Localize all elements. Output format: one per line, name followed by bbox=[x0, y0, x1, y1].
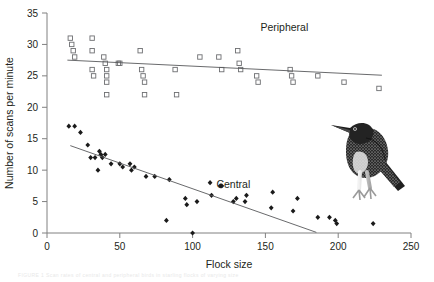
svg-text:25: 25 bbox=[27, 70, 39, 81]
series-peripheral-points bbox=[68, 36, 381, 97]
svg-text:150: 150 bbox=[257, 241, 274, 252]
svg-text:200: 200 bbox=[330, 241, 347, 252]
svg-text:20: 20 bbox=[27, 102, 39, 113]
starling-bird-illustration bbox=[326, 112, 406, 210]
svg-text:5: 5 bbox=[32, 196, 38, 207]
y-axis-title: Number of scans per minute bbox=[3, 57, 15, 189]
figure-container: 05101520253035050100150200250 Peripheral… bbox=[0, 0, 434, 282]
svg-text:0: 0 bbox=[32, 228, 38, 239]
svg-text:250: 250 bbox=[403, 241, 420, 252]
series-annotation-peripheral: Peripheral bbox=[260, 21, 308, 33]
x-axis-title: Flock size bbox=[206, 258, 253, 270]
svg-text:10: 10 bbox=[27, 165, 39, 176]
svg-text:100: 100 bbox=[184, 241, 201, 252]
series-annotation-central: Central bbox=[216, 178, 250, 190]
svg-text:0: 0 bbox=[44, 241, 50, 252]
figure-caption: FIGURE 1 Scan rates of central and perip… bbox=[0, 272, 434, 282]
svg-text:35: 35 bbox=[27, 8, 39, 19]
svg-text:50: 50 bbox=[114, 241, 126, 252]
svg-text:30: 30 bbox=[27, 39, 39, 50]
svg-text:15: 15 bbox=[27, 133, 39, 144]
